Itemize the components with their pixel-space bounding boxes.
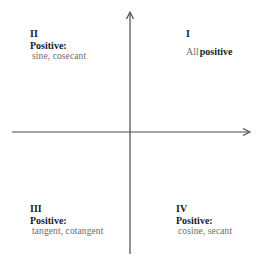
quadrant-iv: IV Positive: cosine, secant <box>176 204 232 237</box>
quadrant-ii-heading: Positive: <box>30 41 86 51</box>
quadrant-i: I Allpositive <box>186 29 233 58</box>
quadrant-iii-heading: Positive: <box>30 216 103 226</box>
trig-quadrant-diagram: II Positive: sine, cosecant I Allpositiv… <box>0 0 262 261</box>
quadrant-iii-numeral: III <box>30 204 103 214</box>
quadrant-ii-numeral: II <box>30 29 86 39</box>
quadrant-i-label-bold: positive <box>200 46 233 57</box>
quadrant-ii: II Positive: sine, cosecant <box>30 29 86 62</box>
quadrant-iii-functions: tangent, cotangent <box>30 227 103 237</box>
quadrant-iv-numeral: IV <box>176 204 232 214</box>
quadrant-i-numeral: I <box>186 29 233 39</box>
quadrant-iii: III Positive: tangent, cotangent <box>30 204 103 237</box>
quadrant-ii-functions: sine, cosecant <box>30 52 86 62</box>
quadrant-iv-functions: cosine, secant <box>176 227 232 237</box>
quadrant-i-label: Allpositive <box>186 42 233 58</box>
quadrant-i-label-prefix: All <box>186 46 199 57</box>
quadrant-iv-heading: Positive: <box>176 216 232 226</box>
